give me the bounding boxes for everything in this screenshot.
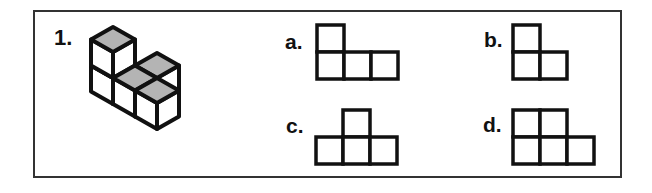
grid-square bbox=[317, 25, 344, 52]
grid-square bbox=[370, 137, 397, 164]
grid-square bbox=[344, 52, 371, 79]
grid-square bbox=[317, 52, 344, 79]
option-b-grid[interactable] bbox=[513, 25, 567, 79]
option-a-grid[interactable] bbox=[317, 25, 398, 79]
grid-square bbox=[540, 137, 567, 164]
grid-square bbox=[513, 110, 540, 137]
grid-square bbox=[513, 137, 540, 164]
option-c-grid[interactable] bbox=[316, 110, 397, 164]
grid-square bbox=[540, 52, 567, 79]
grid-square bbox=[316, 137, 343, 164]
grid-square bbox=[513, 52, 540, 79]
grid-square bbox=[343, 137, 370, 164]
option-d-grid[interactable] bbox=[513, 110, 594, 164]
grid-square bbox=[540, 110, 567, 137]
grid-square bbox=[513, 25, 540, 52]
grid-square bbox=[343, 110, 370, 137]
grid-square bbox=[567, 137, 594, 164]
answer-grids bbox=[0, 0, 652, 193]
grid-square bbox=[371, 52, 398, 79]
